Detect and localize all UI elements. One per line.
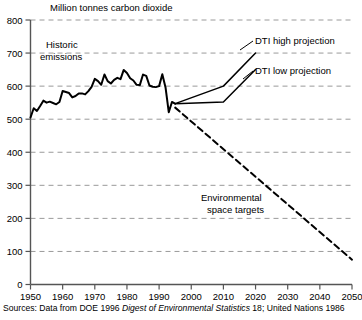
x-tick-label-2010: 2010 xyxy=(213,291,234,302)
environmental-targets-label-line2: space targets xyxy=(207,204,264,215)
dti-low-projection-label: DTI low projection xyxy=(255,65,331,76)
historic-emissions-label-line1: Historic xyxy=(46,39,78,50)
x-tick-label-2020: 2020 xyxy=(245,291,266,302)
environmental-targets-label-line1: Environmental xyxy=(201,192,262,203)
x-tick-label-2040: 2040 xyxy=(309,291,330,302)
y-tick-label-800: 800 xyxy=(7,15,23,26)
y-tick-label-100: 100 xyxy=(7,246,23,257)
dti-high-projection-label: DTI high projection xyxy=(255,35,335,46)
x-tick-label-1950: 1950 xyxy=(20,291,41,302)
source-suffix: 18; United Nations 1986 xyxy=(250,303,345,313)
historic-emissions-label-line2: emissions xyxy=(40,51,82,62)
source-prefix: Sources: Data from DOE 1996 xyxy=(3,303,122,313)
chart-title: Million tonnes carbon dioxide xyxy=(50,2,173,13)
y-tick-label-0: 0 xyxy=(17,279,22,290)
source-citation: Sources: Data from DOE 1996 Digest of En… xyxy=(3,303,359,314)
source-italic-title: Digest of Environmental Statistics xyxy=(122,303,250,313)
y-tick-label-300: 300 xyxy=(7,180,23,191)
emissions-line-chart: 0100200300400500600700800 19501960197019… xyxy=(0,0,362,320)
x-tick-label-2000: 2000 xyxy=(181,291,202,302)
y-tick-label-700: 700 xyxy=(7,48,23,59)
y-tick-label-500: 500 xyxy=(7,114,23,125)
x-tick-label-1990: 1990 xyxy=(149,291,170,302)
chart-figure: 0100200300400500600700800 19501960197019… xyxy=(0,0,362,320)
x-tick-label-2030: 2030 xyxy=(277,291,298,302)
x-tick-label-2050: 2050 xyxy=(341,291,362,302)
x-tick-label-1960: 1960 xyxy=(52,291,73,302)
y-tick-label-400: 400 xyxy=(7,147,23,158)
x-tick-label-1970: 1970 xyxy=(84,291,105,302)
y-tick-label-200: 200 xyxy=(7,213,23,224)
y-tick-label-600: 600 xyxy=(7,81,23,92)
x-tick-label-1980: 1980 xyxy=(116,291,137,302)
